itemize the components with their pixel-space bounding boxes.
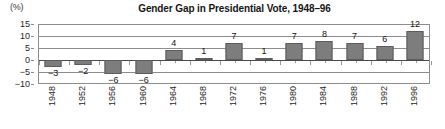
x-minor-tick <box>431 61 432 65</box>
y-tick-mark <box>31 60 34 61</box>
bars-layer: −3−2−6−64171787612 <box>38 24 430 84</box>
bar-group[interactable]: −2 <box>68 24 98 84</box>
x-tick-label: 1968 <box>199 86 208 106</box>
bar[interactable] <box>376 46 393 60</box>
x-axis: 1948195219561960196419681972197619801984… <box>38 86 430 129</box>
y-tick-mark <box>31 24 34 25</box>
bar-group[interactable]: −6 <box>98 24 128 84</box>
bar-group[interactable]: 6 <box>370 24 400 84</box>
bar-value-label: 6 <box>382 35 387 44</box>
bar-group[interactable]: 8 <box>309 24 339 84</box>
bar-value-label: −6 <box>108 76 118 85</box>
y-tick-mark <box>31 36 34 37</box>
x-tick-label: 1984 <box>319 86 328 106</box>
bar[interactable] <box>45 60 62 67</box>
x-tick-label: 1972 <box>229 86 238 106</box>
bar-value-label: −3 <box>48 69 58 78</box>
bar[interactable] <box>195 58 212 60</box>
bar-group[interactable]: 4 <box>159 24 189 84</box>
bar[interactable] <box>225 43 242 60</box>
x-tick-label: 1992 <box>380 86 389 106</box>
x-tick-label: 1964 <box>169 86 178 106</box>
bar-value-label: 1 <box>262 47 267 56</box>
bar[interactable] <box>316 41 333 60</box>
bar-group[interactable]: 7 <box>340 24 370 84</box>
y-tick-label: −10 <box>15 80 30 89</box>
bar-group[interactable]: 1 <box>189 24 219 84</box>
y-tick-label: 0 <box>25 56 30 65</box>
bar-group[interactable]: −3 <box>38 24 68 84</box>
x-tick-label: 1988 <box>350 86 359 106</box>
bar-value-label: 1 <box>201 47 206 56</box>
y-tick-mark <box>31 84 34 85</box>
y-axis: 151050−5−10 <box>0 24 34 84</box>
chart-title: Gender Gap in Presidential Vote, 1948–96 <box>0 3 445 14</box>
bar[interactable] <box>105 60 122 74</box>
bar-value-label: −2 <box>78 67 88 76</box>
bar[interactable] <box>75 60 92 65</box>
bar-value-label: 12 <box>410 20 420 29</box>
y-tick-label: 5 <box>25 44 30 53</box>
bar[interactable] <box>406 31 423 60</box>
bar-value-label: 7 <box>292 32 297 41</box>
x-tick-label: 1976 <box>259 86 268 106</box>
bar-value-label: 7 <box>231 32 236 41</box>
y-tick-mark <box>31 48 34 49</box>
bar-value-label: 4 <box>171 39 176 48</box>
bar-value-label: 8 <box>322 30 327 39</box>
bar-group[interactable]: 7 <box>219 24 249 84</box>
bar-value-label: −6 <box>138 76 148 85</box>
x-tick-label: 1952 <box>78 86 87 106</box>
bar-group[interactable]: −6 <box>128 24 158 84</box>
bar-group[interactable]: 7 <box>279 24 309 84</box>
x-tick-label: 1948 <box>48 86 57 106</box>
bar[interactable] <box>346 43 363 60</box>
bar[interactable] <box>256 58 273 60</box>
gender-gap-bar-chart: (%) Gender Gap in Presidential Vote, 194… <box>0 0 445 129</box>
bar[interactable] <box>286 43 303 60</box>
x-tick-label: 1980 <box>289 86 298 106</box>
y-tick-label: 15 <box>20 20 30 29</box>
bar-value-label: 7 <box>352 32 357 41</box>
y-tick-label: −5 <box>20 68 30 77</box>
x-tick-label: 1996 <box>410 86 419 106</box>
bar-group[interactable]: 12 <box>400 24 430 84</box>
y-tick-label: 10 <box>20 32 30 41</box>
x-tick-label: 1956 <box>108 86 117 106</box>
bar[interactable] <box>135 60 152 74</box>
bar[interactable] <box>165 50 182 60</box>
x-tick-label: 1960 <box>139 86 148 106</box>
bar-group[interactable]: 1 <box>249 24 279 84</box>
y-tick-mark <box>31 72 34 73</box>
